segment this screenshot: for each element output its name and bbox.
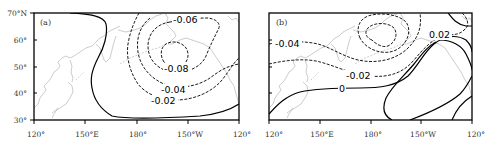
x-tick-label: 120°: [233, 130, 251, 139]
y-tick-label: 40°: [14, 89, 28, 98]
x-tick-label: 180°: [129, 130, 147, 139]
y-axis-a: 70°N 60° 50° 40° 30°: [7, 9, 37, 125]
y-tick-label: 30°: [14, 116, 28, 125]
panel-b: -0.04 -0.02 0 0.02 (b) 120° 150°E 180° 1…: [265, 13, 485, 139]
contour-label: -0.04: [161, 84, 186, 95]
contour-pos002-b-south: [410, 76, 472, 120]
panel-label-b: (b): [276, 18, 287, 27]
contour-label: -0.06: [173, 14, 198, 25]
x-tick-label: 150°W: [177, 130, 203, 139]
x-tick-label: 150°E: [75, 130, 99, 139]
contour-pos002-b-east: [440, 40, 472, 70]
contour-label: -0.08: [164, 63, 189, 74]
y-tick-label: 60°: [14, 36, 28, 45]
x-axis-a: 120° 150°E 180° 150°W 120°: [27, 120, 251, 139]
y-tick-label: 70°N: [7, 9, 27, 18]
contour-neg008-b: [366, 24, 396, 47]
x-axis-b: 120° 150°E 180° 150°W 120°: [265, 120, 485, 139]
contour-label: -0.02: [346, 70, 371, 81]
contour-label: 0.02: [429, 29, 450, 40]
x-tick-label: 120°: [467, 130, 485, 139]
coastline-a: [34, 13, 239, 118]
x-tick-label: 120°: [27, 130, 45, 139]
x-tick-label: 150°W: [410, 130, 436, 139]
figure: -0.06 -0.08 -0.04 -0.02 (a) 70°N 60° 50°…: [0, 0, 486, 149]
contour-label: 0: [339, 83, 345, 94]
x-tick-label: 150°E: [310, 130, 334, 139]
contour-label: -0.04: [275, 38, 300, 49]
contour-label: -0.02: [151, 95, 176, 106]
x-tick-label: 180°: [364, 130, 382, 139]
panel-a: -0.06 -0.08 -0.04 -0.02 (a) 70°N 60° 50°…: [7, 9, 251, 139]
contour-pos004-b: [452, 96, 472, 120]
contour-ne-b: [448, 13, 472, 26]
panel-label-a: (a): [40, 18, 51, 27]
contour-pos002-b: [384, 42, 436, 120]
y-tick-label: 50°: [14, 63, 28, 72]
x-tick-label: 120°: [265, 130, 283, 139]
